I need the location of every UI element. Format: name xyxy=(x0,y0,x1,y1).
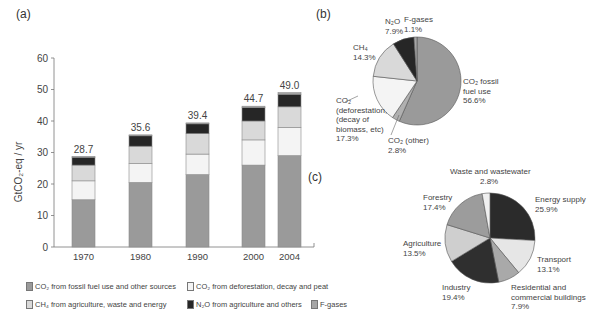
bar-segment-co-from-fossil-fuel-use-and-other-sources xyxy=(129,182,152,247)
bar-segment-co-from-fossil-fuel-use-and-other-sources xyxy=(242,165,265,247)
bar-1980: 35.61980 xyxy=(129,122,152,262)
legend-swatch xyxy=(311,300,318,309)
bar-segment-co-from-deforestation-decay-and-peat xyxy=(129,164,152,183)
x-tick-label: 1970 xyxy=(73,251,94,262)
bar-segment-co-from-fossil-fuel-use-and-other-sources xyxy=(186,175,209,247)
bar-total-label: 44.7 xyxy=(244,93,264,104)
bar-2004: 49.02004 xyxy=(278,80,301,262)
x-tick-label: 1990 xyxy=(187,251,208,262)
bar-segment-f-gases xyxy=(278,93,301,95)
bar-segment-n-o-from-agriculture-and-others xyxy=(186,124,209,134)
legend-label: CO₂ from deforestation, decay and peat xyxy=(196,282,328,291)
legend-swatch xyxy=(187,300,194,309)
legend-label: CO₂ from fossil fuel use and other sourc… xyxy=(35,282,176,291)
legend-swatch xyxy=(26,282,33,291)
x-tick-label: 2004 xyxy=(279,251,300,262)
panel-label-b: (b) xyxy=(316,7,331,21)
y-axis-label: GtCO₂-eq / yr xyxy=(13,141,24,202)
bar-segment-co-from-deforestation-decay-and-peat xyxy=(72,181,95,200)
pie-slice-label: F-gases1.1% xyxy=(404,15,433,34)
bar-segment-f-gases xyxy=(242,106,265,107)
bar-segment-n-o-from-agriculture-and-others xyxy=(129,136,152,146)
legend-item-co2-fossil: CO₂ from fossil fuel use and other sourc… xyxy=(26,282,176,291)
legend-label: CH₄ from agriculture, waste and energy xyxy=(35,300,166,309)
bar-segment-n-o-from-agriculture-and-others xyxy=(72,157,95,165)
legend-item-f-gases: F-gases xyxy=(311,300,347,309)
bar-segment-ch-from-agriculture-waste-and-energy xyxy=(186,134,209,154)
bar-segment-f-gases xyxy=(72,157,95,158)
pie-slice-label: Residential andcommercial buildings7.9% xyxy=(511,283,586,311)
pie-slice-label: Energy supply25.9% xyxy=(535,195,586,214)
bar-2000: 44.72000 xyxy=(242,93,265,262)
legend-item-co2-deforestation: CO₂ from deforestation, decay and peat xyxy=(187,282,328,291)
legend-label: N₂O from agriculture and others xyxy=(196,300,302,309)
bar-total-label: 28.7 xyxy=(74,144,94,155)
y-tick-label: 20 xyxy=(37,179,49,190)
pie-slice-label: N₂O7.9% xyxy=(385,17,403,36)
pie-slice-label: Industry19.4% xyxy=(442,283,470,302)
stacked-bar-chart: 0102030405060 28.7197035.6198039.4199044… xyxy=(13,53,314,263)
bar-1990: 39.41990 xyxy=(186,110,209,262)
legend-item-n2o: N₂O from agriculture and others xyxy=(187,300,302,309)
bar-segment-co-from-deforestation-decay-and-peat xyxy=(278,127,301,155)
legend-swatch xyxy=(187,282,194,291)
pie-slice-label: Agriculture13.5% xyxy=(403,239,442,258)
bar-segment-co-from-deforestation-decay-and-peat xyxy=(186,154,209,174)
x-tick-label: 2000 xyxy=(243,251,264,262)
pie-chart-sectors xyxy=(445,193,535,283)
bar-segment-co-from-fossil-fuel-use-and-other-sources xyxy=(278,156,301,247)
bar-segment-ch-from-agriculture-waste-and-energy xyxy=(278,107,301,127)
bars: 28.7197035.6198039.4199044.7200049.02004 xyxy=(72,80,301,262)
pie-slice-label: Waste and wastewater2.8% xyxy=(450,167,531,186)
y-tick-label: 30 xyxy=(37,147,49,158)
y-tick-label: 0 xyxy=(42,242,48,253)
figure-canvas: 0102030405060 28.7197035.6198039.4199044… xyxy=(0,0,595,329)
bar-segment-ch-from-agriculture-waste-and-energy xyxy=(242,121,265,140)
bar-segment-ch-from-agriculture-waste-and-energy xyxy=(72,165,95,181)
y-tick-label: 50 xyxy=(37,84,49,95)
pie-slice-label: CH₄14.3% xyxy=(353,43,376,62)
x-tick-label: 1980 xyxy=(130,251,151,262)
bar-total-label: 49.0 xyxy=(280,80,300,91)
legend-swatch xyxy=(26,300,33,309)
bar-segment-ch-from-agriculture-waste-and-energy xyxy=(129,146,152,163)
y-tick-label: 60 xyxy=(37,53,49,64)
bar-segment-co-from-fossil-fuel-use-and-other-sources xyxy=(72,200,95,247)
pie-slice-label: CO₂ (other)2.8% xyxy=(388,136,429,155)
legend-item-ch4: CH₄ from agriculture, waste and energy xyxy=(26,300,166,309)
bar-1970: 28.71970 xyxy=(72,144,95,262)
bar-segment-n-o-from-agriculture-and-others xyxy=(278,94,301,107)
y-tick-label: 40 xyxy=(37,116,49,127)
bar-segment-f-gases xyxy=(129,135,152,136)
bar-segment-f-gases xyxy=(186,123,209,124)
legend-label: F-gases xyxy=(320,300,347,309)
bar-segment-co-from-deforestation-decay-and-peat xyxy=(242,140,265,165)
bar-total-label: 39.4 xyxy=(188,110,208,121)
pie-slice-label: CO₂ fossilfuel use56.6% xyxy=(463,77,499,105)
pie-slice-label: Forestry17.4% xyxy=(423,193,452,212)
bar-segment-n-o-from-agriculture-and-others xyxy=(242,107,265,121)
panel-label-a: (a) xyxy=(16,7,31,21)
y-tick-label: 10 xyxy=(37,210,49,221)
pie-slice-energy-supply xyxy=(490,193,535,241)
bar-total-label: 35.6 xyxy=(131,122,151,133)
pie-slice-label: Transport13.1% xyxy=(537,255,572,274)
panel-label-c: (c) xyxy=(308,170,322,184)
